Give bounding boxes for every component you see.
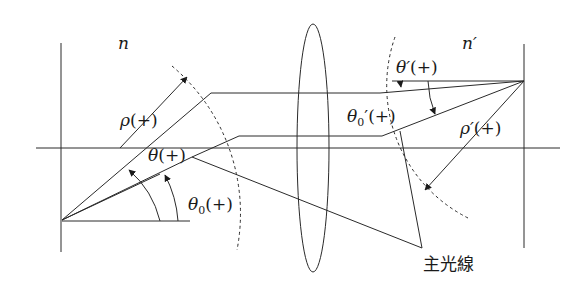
theta-angle-arc (129, 170, 160, 221)
label-theta0-prime: θ0′(+) (347, 108, 396, 128)
parallel-ray-lower (192, 136, 239, 157)
label-theta-prime: θ′(+) (396, 59, 438, 76)
ray-lower-image (382, 81, 524, 136)
theta-prime-angle-arc (428, 81, 435, 114)
theta0-angle-arc (165, 175, 178, 221)
ray-theta0-object (62, 174, 160, 220)
principal-ray-image (400, 131, 422, 248)
label-object-medium: n (118, 35, 129, 52)
ray-upper-image (380, 81, 524, 93)
label-theta: θ(+) (148, 147, 186, 164)
label-principal-ray: 主光線 (423, 256, 474, 273)
label-rho-prime: ρ′(+) (460, 120, 501, 137)
theta-prime-angle-arc-small (400, 81, 401, 87)
label-theta0: θ0(+) (188, 196, 233, 216)
label-image-medium: n′ (462, 35, 477, 52)
label-rho: ρ(+) (120, 112, 158, 129)
optical-diagram (0, 0, 586, 297)
